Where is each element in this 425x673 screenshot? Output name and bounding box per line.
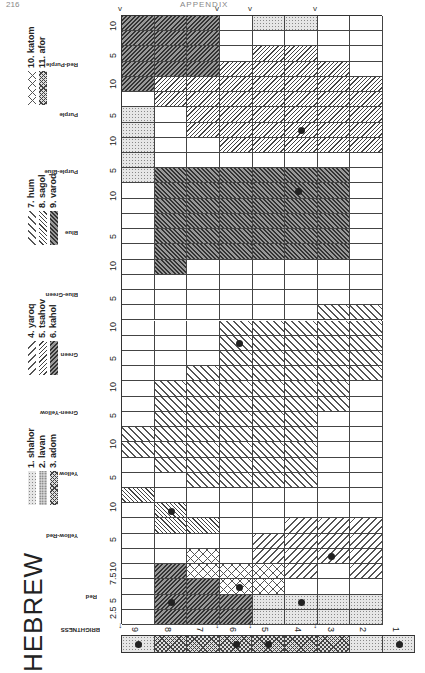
legend-swatch-varod	[50, 211, 58, 245]
hue-tick: 5	[108, 413, 118, 418]
grid-cell	[350, 31, 383, 46]
grid-cell	[122, 244, 155, 259]
grid-cell	[220, 534, 253, 549]
grid-cell	[350, 564, 383, 579]
grid-cell	[122, 168, 155, 183]
grid-cell	[220, 138, 253, 153]
grid-cell	[285, 458, 318, 473]
grid-cell	[318, 123, 351, 138]
grid-cell	[155, 275, 188, 290]
grid-cell	[122, 503, 155, 518]
grid-cell	[285, 503, 318, 518]
grid-cell	[285, 275, 318, 290]
grid-cell	[285, 488, 318, 503]
grid-cell	[122, 290, 155, 305]
hue-tick: 5	[108, 234, 118, 239]
grid-cell	[253, 229, 286, 244]
grid-cell	[220, 564, 253, 579]
grid-cell	[220, 290, 253, 305]
grid-cell	[187, 412, 220, 427]
grid-cell	[155, 62, 188, 77]
grid-cell	[350, 458, 383, 473]
hue-tick: 5	[108, 356, 118, 361]
grid-cell	[253, 107, 286, 122]
grid-cell	[285, 518, 318, 533]
grid-cell	[253, 321, 286, 336]
grid-cell	[318, 336, 351, 351]
grid-cell	[155, 153, 188, 168]
grid-cell	[350, 275, 383, 290]
grid-cell	[187, 351, 220, 366]
grid-cell	[155, 260, 188, 275]
grid-cell	[350, 138, 383, 153]
grid-cell	[187, 549, 220, 564]
grid-cell	[318, 16, 351, 31]
grid-cell	[220, 92, 253, 107]
grid-cell	[350, 92, 383, 107]
grid-cell	[155, 427, 188, 442]
grid-cell	[350, 488, 383, 503]
color-grid	[121, 15, 382, 624]
grid-cell	[318, 381, 351, 396]
grid-cell	[155, 305, 188, 320]
grid-cell	[318, 92, 351, 107]
grid-cell	[122, 31, 155, 46]
grid-cell	[187, 275, 220, 290]
grid-cell	[187, 473, 220, 488]
grid-cell	[220, 107, 253, 122]
grid-cell	[155, 381, 188, 396]
grid-cell	[285, 564, 318, 579]
grid-cell	[350, 397, 383, 412]
legend-swatch-adom	[50, 471, 58, 505]
grid-cell	[285, 397, 318, 412]
hue-label: Green	[61, 352, 78, 358]
grid-cell	[187, 107, 220, 122]
grid-cell	[122, 321, 155, 336]
grid-cell	[350, 229, 383, 244]
grid-cell	[187, 199, 220, 214]
grid-cell	[350, 412, 383, 427]
grid-cell	[350, 153, 383, 168]
grid-cell	[187, 579, 220, 594]
legend-swatch-yaroq	[28, 341, 36, 375]
grid-cell	[285, 46, 318, 61]
grid-cell	[122, 229, 155, 244]
grid-cell	[220, 321, 253, 336]
grid-cell	[122, 458, 155, 473]
grid-cell	[318, 534, 351, 549]
grid-cell	[285, 107, 318, 122]
legend-swatch-lavan	[39, 471, 47, 505]
grid-cell	[253, 458, 286, 473]
grid-cell	[318, 564, 351, 579]
grid-cell	[155, 16, 188, 31]
grid-cell	[122, 62, 155, 77]
grid-cell	[318, 518, 351, 533]
grid-cell	[350, 214, 383, 229]
grid-cell	[220, 123, 253, 138]
grid-cell	[122, 260, 155, 275]
grid-cell	[350, 366, 383, 381]
grid-cell	[187, 488, 220, 503]
arrow-icon: ↓	[118, 620, 123, 630]
grid-cell	[220, 168, 253, 183]
grid-cell	[253, 595, 286, 610]
grid-cell	[155, 321, 188, 336]
grid-cell	[253, 16, 286, 31]
grid-cell	[187, 46, 220, 61]
grid-cell	[350, 503, 383, 518]
grid-cell	[220, 442, 253, 457]
hue-label: Green-Yellow	[40, 410, 78, 416]
grid-cell	[220, 473, 253, 488]
grid-cell	[318, 442, 351, 457]
grid-cell	[122, 123, 155, 138]
grid-cell	[122, 275, 155, 290]
grid-cell	[155, 31, 188, 46]
grid-cell	[187, 244, 220, 259]
grid-cell	[220, 199, 253, 214]
grid-cell	[122, 610, 155, 625]
grid-cell	[155, 579, 188, 594]
grid-cell	[285, 214, 318, 229]
hue-tick: 5	[108, 537, 118, 542]
brightness-tick: 7	[195, 627, 205, 632]
legend-group-1: 1. shahor 2. lavan 3. adom	[26, 428, 59, 505]
